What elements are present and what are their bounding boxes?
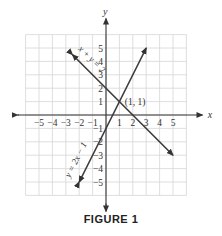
x-axis-label: x — [207, 109, 213, 120]
y-tick-label: 4 — [98, 57, 103, 67]
y-tick-label: −4 — [93, 164, 103, 174]
y-tick-label: −2 — [93, 137, 103, 147]
x-tick-label: −5 — [34, 118, 44, 128]
x-tick-label: −4 — [47, 118, 57, 128]
y-tick-label: 5 — [98, 44, 103, 54]
y-tick-label: 1 — [98, 97, 103, 107]
x-tick-label: −2 — [74, 118, 84, 128]
y-tick-label: −1 — [93, 124, 103, 134]
intersection-label: (1, 1) — [125, 97, 146, 108]
y-tick-label: 2 — [98, 84, 103, 94]
graph-figure: xy x + y = 2y = 2x − 1(1, 1) −5−4−3−2−11… — [0, 0, 222, 236]
line2-label: y = 2x − 1 — [62, 140, 89, 179]
x-tick-label: 4 — [157, 118, 162, 128]
x-tick-label: −3 — [61, 118, 71, 128]
x-tick-label: 5 — [171, 118, 176, 128]
y-tick-label: −3 — [93, 151, 103, 161]
y-axis-label: y — [102, 6, 108, 17]
figure-caption: FIGURE 1 — [0, 213, 222, 225]
y-tick-label: −5 — [93, 178, 103, 188]
y-tick-label: 3 — [98, 70, 103, 80]
x-tick-label: 1 — [117, 118, 122, 128]
x-tick-label: 2 — [130, 118, 135, 128]
x-tick-label: 3 — [144, 118, 149, 128]
